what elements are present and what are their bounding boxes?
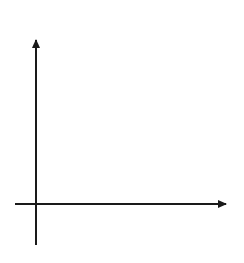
coordinate-plane [0, 0, 244, 263]
